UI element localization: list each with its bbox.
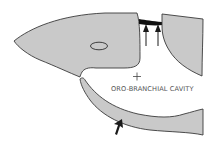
dark-band (139, 19, 163, 25)
operculum-shape (162, 14, 203, 76)
up-arrow-left-icon (143, 24, 149, 46)
up-arrow-right-icon (155, 24, 161, 46)
plus-marker (133, 73, 141, 81)
bottom-arrow-icon (114, 119, 123, 135)
cavity-label: ORO-BRANCHIAL CAVITY (111, 85, 194, 93)
upper-head-shape (14, 13, 140, 77)
oro-branchial-diagram (0, 0, 213, 159)
